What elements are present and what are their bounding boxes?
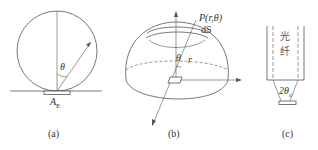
panel-b-drawing	[126, 11, 242, 126]
panel-b-surface-label: dS	[201, 25, 212, 35]
panel-c-fiber-char-2: 纤	[280, 47, 290, 57]
panel-a-drawing	[10, 11, 102, 95]
angle-subscript: c	[289, 91, 292, 99]
panel-b-point-label: P(r,θ)	[199, 13, 222, 23]
panel-b-radius-label: r	[188, 55, 192, 65]
panel-c-angle-label: 2θc	[279, 86, 292, 99]
panel-a-caption: (a)	[48, 129, 59, 139]
panel-b-theta-label: θ	[176, 53, 181, 63]
angle-symbol: 2θ	[279, 85, 289, 96]
panel-c-caption: (c)	[282, 129, 293, 139]
panel-c-fiber-char-1: 光	[280, 32, 290, 42]
panel-b-caption: (b)	[168, 129, 180, 139]
panel-a-area-label: AE	[50, 97, 60, 110]
area-subscript: E	[56, 102, 60, 110]
panel-a-theta-label: θ	[60, 62, 65, 72]
